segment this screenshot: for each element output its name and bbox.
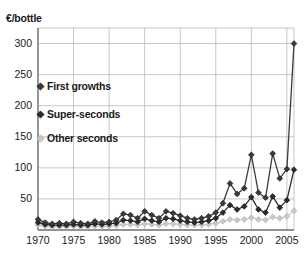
x-axis-tick-label: 2005 [270, 234, 304, 246]
x-axis-tick-label: 1995 [199, 234, 233, 246]
legend-item-label: Other seconds [47, 132, 118, 144]
legend-diamond-icon [36, 110, 45, 119]
y-axis-tick-label: 150 [2, 130, 32, 142]
y-axis-tick-label: 300 [2, 37, 32, 49]
legend-item-label: First growths [47, 80, 111, 92]
y-axis-tick-label: 100 [2, 161, 32, 173]
x-axis-tick-label: 1985 [128, 234, 162, 246]
legend-item-2[interactable]: Super-seconds [36, 108, 120, 120]
y-axis-tick-label: 200 [2, 99, 32, 111]
x-axis-tick-label: 1990 [163, 234, 197, 246]
price-line-chart: €/bottle 50100150200250300 1970197519801… [0, 0, 305, 265]
y-axis-tick-label: 50 [2, 192, 32, 204]
legend-diamond-icon [36, 134, 45, 143]
y-axis-tick-label: 250 [2, 68, 32, 80]
x-axis-tick-label: 1970 [21, 234, 55, 246]
legend-diamond-icon [36, 82, 45, 91]
legend-item-1[interactable]: First growths [36, 80, 111, 92]
legend-item-label: Super-seconds [47, 108, 120, 120]
x-axis-tick-label: 1975 [57, 234, 91, 246]
x-axis-tick-label: 1980 [92, 234, 126, 246]
x-axis-tick-label: 2000 [234, 234, 268, 246]
legend-item-3[interactable]: Other seconds [36, 132, 118, 144]
